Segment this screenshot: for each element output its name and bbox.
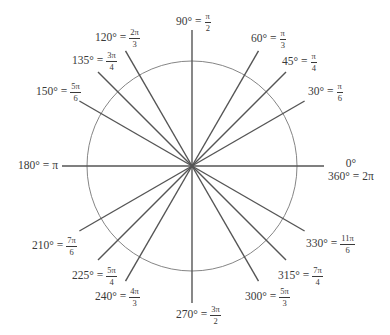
label-240: 240° = 4π3	[95, 287, 140, 307]
equals-sign: =	[97, 55, 104, 67]
alt-degree-text: 360°	[328, 170, 350, 183]
degree-text: 300°	[245, 291, 267, 303]
ray-60	[192, 51, 259, 166]
equals-sign: =	[327, 86, 334, 98]
label-0-360: 0° 360° = 2π	[328, 157, 374, 183]
label-120: 120° = 2π3	[95, 28, 140, 48]
radian-fraction: 3π4	[106, 51, 117, 71]
equals-sign: =	[43, 160, 50, 172]
degree-text: 60°	[251, 33, 267, 45]
ray-330	[192, 166, 305, 231]
degree-text: 240°	[95, 291, 117, 303]
label-300: 300° = 5π3	[245, 287, 290, 307]
equals-sign: =	[97, 270, 104, 282]
label-90: 90° = π2	[176, 12, 211, 32]
radian-fraction: π4	[311, 52, 317, 72]
radian-fraction: 7π6	[66, 236, 77, 256]
degree-text: 90°	[176, 16, 192, 28]
radian-text: 2π	[362, 170, 374, 183]
degree-text: 120°	[95, 32, 117, 44]
degree-text: 270°	[176, 309, 198, 321]
label-180: 180° = π	[18, 160, 58, 172]
equals-sign: =	[353, 170, 360, 183]
ray-120	[126, 51, 193, 166]
label-270: 270° = 3π2	[176, 305, 221, 325]
ray-135	[98, 72, 192, 166]
radian-fraction: 5π4	[106, 266, 117, 286]
ray-210	[79, 166, 192, 231]
radian-fraction: π2	[205, 12, 211, 32]
label-135: 135° = 3π4	[72, 51, 117, 71]
degree-text: 135°	[72, 55, 94, 67]
degree-text: 30°	[308, 86, 324, 98]
radian-fraction: 11π6	[340, 234, 354, 254]
radian-fraction: 3π2	[210, 305, 221, 325]
degree-text: 330°	[306, 238, 328, 250]
equals-sign: =	[270, 291, 277, 303]
equals-sign: =	[195, 16, 202, 28]
ray-150	[79, 101, 192, 166]
label-60: 60° = π3	[251, 29, 286, 49]
radian-fraction: π3	[280, 29, 286, 49]
degree-text: 150°	[36, 86, 58, 98]
radian-fraction: 2π3	[129, 28, 140, 48]
label-150: 150° = 5π6	[36, 82, 81, 102]
ray-240	[126, 166, 193, 281]
ray-30	[192, 101, 305, 166]
equals-sign: =	[301, 56, 308, 68]
radian-fraction: 5π6	[70, 82, 81, 102]
equals-sign: =	[57, 240, 64, 252]
radian-fraction: 5π3	[279, 287, 290, 307]
radian-text: π	[52, 160, 58, 172]
degree-text: 225°	[72, 270, 94, 282]
label-315: 315° = 7π4	[278, 266, 323, 286]
equals-sign: =	[331, 238, 338, 250]
degree-text: 180°	[18, 160, 40, 172]
radian-fraction: 7π4	[312, 266, 323, 286]
equals-sign: =	[120, 32, 127, 44]
equals-sign: =	[120, 291, 127, 303]
degree-text: 45°	[282, 56, 298, 68]
label-225: 225° = 5π4	[72, 266, 117, 286]
radian-fraction: π6	[337, 82, 343, 102]
radian-fraction: 4π3	[129, 287, 140, 307]
ray-315	[192, 166, 286, 260]
alt-degree-line: 360° = 2π	[328, 170, 374, 183]
label-45: 45° = π4	[282, 52, 317, 72]
equals-sign: =	[270, 33, 277, 45]
equals-sign: =	[303, 270, 310, 282]
ray-45	[192, 72, 286, 166]
label-30: 30° = π6	[308, 82, 343, 102]
degree-text: 315°	[278, 270, 300, 282]
equals-sign: =	[201, 309, 208, 321]
equals-sign: =	[61, 86, 68, 98]
label-330: 330° = 11π6	[306, 234, 355, 254]
ray-225	[98, 166, 192, 260]
degree-text: 210°	[32, 240, 54, 252]
label-210: 210° = 7π6	[32, 236, 77, 256]
degree-text: 0°	[346, 157, 356, 170]
ray-300	[192, 166, 259, 281]
